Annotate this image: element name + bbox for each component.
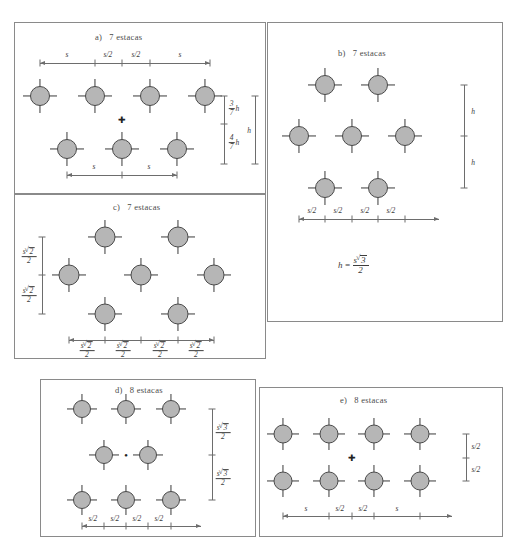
dim-label-c-b2: s22: [116, 341, 131, 359]
frac-numerator: s2: [22, 247, 37, 257]
dim-line-e-right-lower: [466, 458, 467, 481]
dim-tick: [461, 188, 468, 189]
pile-symbol: [358, 465, 390, 497]
frac-denominator: 2: [116, 351, 131, 359]
dim-tick: [405, 216, 406, 223]
formula-lhs: h: [338, 260, 343, 270]
dim-label-a-b1: s: [93, 162, 96, 171]
sqrt-icon: 3: [357, 255, 368, 265]
sqrt-icon: 2: [193, 341, 203, 350]
arrow-icon: [283, 514, 288, 518]
dim-tick: [40, 60, 41, 67]
arrow-icon: [67, 173, 72, 177]
pile-symbol: [361, 171, 395, 205]
dim-label-e-b2: s/2: [336, 504, 345, 513]
dim-label-a-frac-37h: 3 7 h: [229, 99, 240, 117]
dim-line-d-right-upper: [212, 409, 213, 455]
pile-symbol: [156, 485, 186, 515]
dim-label-a-total-h: h: [247, 126, 251, 135]
frac-numerator: s2: [22, 286, 37, 296]
sqrt-icon: 2: [26, 286, 36, 295]
pile-symbol: [52, 258, 86, 292]
frac-numerator: s3: [216, 423, 231, 433]
dim-label-d-r1: s32: [216, 423, 231, 441]
dim-line-a-right-upper: [224, 96, 225, 124]
dim-label-e-b3: s/2: [359, 504, 368, 513]
dim-label-b2: s/2: [334, 206, 343, 215]
frac-radicand: 3: [223, 469, 229, 478]
formula-denominator: 2: [353, 266, 369, 275]
frac-radicand: 2: [123, 341, 129, 350]
dim-label-e-r1: s/2: [472, 442, 481, 451]
sqrt-icon: 2: [84, 341, 94, 350]
dim-label-a-frac-47h: 4 7 h: [229, 133, 240, 151]
dim-label-e-b4: s: [396, 504, 399, 513]
frac-numerator: s2: [153, 341, 168, 351]
pile-symbol: [388, 119, 422, 153]
formula-h: h = s3 2: [338, 255, 369, 276]
dim-label-a-s3: s/2: [132, 50, 141, 59]
dim-tick: [178, 337, 179, 344]
panel-c-title: c)7 estacas: [113, 202, 160, 212]
dim-tick: [67, 172, 68, 179]
dim-line-e-right-upper: [466, 434, 467, 458]
dim-tick: [209, 409, 216, 410]
centroid-marker-icon: ✚: [348, 454, 356, 463]
pile-symbol: [156, 394, 186, 424]
pile-symbol: [358, 418, 390, 450]
dim-tick: [150, 60, 151, 67]
dim-tick: [374, 513, 375, 520]
arrow-icon: [447, 514, 452, 518]
dim-line-b-bottom: [299, 219, 439, 220]
dim-tick: [461, 136, 468, 137]
dim-label-b-h1: h: [471, 107, 475, 116]
arrow-icon: [40, 61, 45, 65]
pile-symbol: [111, 394, 141, 424]
pile-symbol: [23, 79, 57, 113]
pile-symbol: [197, 258, 231, 292]
dim-label-a-s2: s/2: [104, 50, 113, 59]
centroid-marker-icon: ✚: [118, 116, 126, 125]
panel-e-label: 8 estacas: [354, 395, 387, 405]
frac-numerator: s2: [189, 341, 204, 351]
frac-denominator: 2: [22, 296, 37, 304]
dim-tick: [126, 523, 127, 530]
sqrt-icon: 2: [157, 341, 167, 350]
dim-tick: [325, 216, 326, 223]
frac-numerator: s3: [216, 469, 231, 479]
dim-line-e-bottom: [283, 516, 452, 517]
pile-symbol: [313, 465, 345, 497]
pile-symbol: [67, 394, 97, 424]
sqrt-icon: 3: [220, 423, 230, 432]
dim-tick: [105, 337, 106, 344]
dim-label-b4: s/2: [387, 206, 396, 215]
frac-radicand: 2: [196, 341, 202, 350]
sqrt-icon: 3: [220, 469, 230, 478]
formula-radicand: 3: [360, 255, 367, 265]
dim-tick: [95, 60, 96, 67]
pile-symbol: [188, 79, 222, 113]
pile-symbol: [335, 119, 369, 153]
dim-tick: [463, 481, 470, 482]
frac-denominator: 2: [216, 433, 231, 441]
pile-symbol: [160, 132, 194, 166]
dim-tick: [177, 172, 178, 179]
dim-line-c-left-upper: [42, 237, 43, 275]
dim-label-a-s4: s: [179, 50, 182, 59]
dim-tick: [141, 337, 142, 344]
pile-symbol: [88, 297, 122, 331]
dim-tick: [329, 513, 330, 520]
frac-radicand: 2: [87, 341, 93, 350]
dim-label-d-r2: s32: [216, 469, 231, 487]
pile-symbol: [89, 440, 119, 470]
dim-tick: [69, 337, 70, 344]
dim-line-d-right-lower: [212, 455, 213, 500]
pile-symbol: [78, 79, 112, 113]
dim-label-a-b2: s: [148, 162, 151, 171]
pile-symbol: [313, 418, 345, 450]
pile-symbol: [161, 297, 195, 331]
dim-tick: [461, 85, 468, 86]
pile-symbol: [133, 79, 167, 113]
dim-tick: [221, 124, 228, 125]
pile-symbol: [404, 465, 436, 497]
